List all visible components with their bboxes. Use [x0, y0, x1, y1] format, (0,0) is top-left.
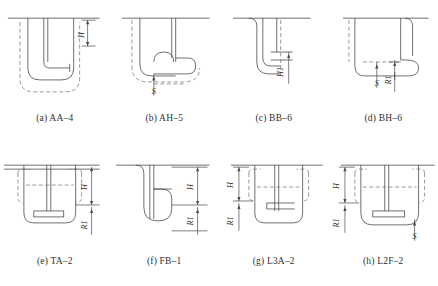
dimension-label-R1: R1: [80, 220, 89, 230]
outer-wall: [24, 165, 76, 223]
figure-caption-f: (f) FB–1: [147, 256, 182, 266]
dim-arrow-bottom-H: [196, 201, 199, 205]
figure-cell-h: H R1 S (h) L2F–2: [329, 143, 438, 286]
figure-caption-a: (a) AA–4: [36, 113, 73, 123]
figure-cell-g: H R1 (g) L3A–2: [219, 143, 329, 286]
dim-arrow-R1: [90, 209, 93, 213]
dim-arrow-bottom-H: [343, 199, 346, 203]
figure-cell-d: R1 S (d) BH–6: [329, 0, 438, 143]
side-loop: [153, 58, 195, 74]
dim-arrow-bottom-H: [86, 42, 89, 46]
figure-sheet: H (a) AA–4: [0, 0, 438, 286]
figure-drawing-a: H: [0, 0, 110, 112]
hidden-outline: [20, 22, 80, 92]
figure-cell-e: H R1 (e) TA–2: [0, 143, 110, 286]
s-symbol-arrow: [375, 64, 378, 68]
lateral-bar-upper: [267, 203, 295, 209]
figure-caption-g: (g) L3A–2: [253, 256, 295, 266]
dim-arrow-top-H: [237, 167, 240, 171]
hidden-left-edge: [354, 173, 360, 203]
t-plate: [34, 211, 64, 217]
dim-arrow-top-H: [343, 167, 346, 171]
figure-caption-d: (d) BH–6: [364, 113, 402, 123]
figure-grid: H (a) AA–4: [0, 0, 438, 286]
hidden-right-edge: [418, 173, 424, 203]
figure-caption-h: (h) L2F–2: [363, 256, 404, 266]
hidden-left-edge: [18, 173, 24, 203]
dimension-H1: [287, 52, 290, 84]
s-symbol-glyph: S: [374, 79, 378, 88]
outer-wall-left: [354, 18, 394, 76]
figure-caption-b: (b) AH–5: [145, 113, 183, 123]
figure-cell-a: H (a) AA–4: [0, 0, 110, 143]
dim-arrow-top-H: [196, 167, 199, 171]
dimension-label-R1: R1: [185, 216, 194, 226]
dimension-H: [338, 167, 358, 203]
figure-drawing-h: H R1 S: [329, 143, 438, 255]
figure-drawing-g: H R1: [219, 143, 329, 255]
top-left-fillet: [135, 165, 143, 183]
right-loop: [394, 60, 418, 76]
outer-wall: [360, 165, 418, 225]
s-symbol-glyph: S: [151, 87, 155, 96]
outer-wall-right: [404, 18, 412, 56]
inner-bar-bend: [263, 58, 281, 66]
figure-cell-c: H1 (c) BB–6: [219, 0, 329, 143]
s-symbol-glyph: S: [412, 232, 416, 241]
dimension-label-H: H: [77, 31, 86, 39]
outer-wall-left: [139, 18, 175, 76]
dim-arrow-bottom-H: [90, 201, 93, 205]
figure-cell-f: H R1 (f) FB–1: [110, 143, 220, 286]
figure-drawing-b: S: [110, 0, 220, 112]
figure-cell-b: S (b) AH–5: [110, 0, 220, 143]
dimension-label-H1: H1: [276, 67, 285, 78]
outer-wall: [28, 18, 74, 80]
dimension-R1: [90, 207, 93, 235]
dim-arrow-R1: [343, 207, 346, 211]
dimension-label-R1: R1: [383, 75, 392, 85]
dimension-label-H: H: [80, 183, 89, 191]
dimension-label-H: H: [226, 181, 235, 189]
s-symbol-arrow: [152, 76, 155, 80]
figure-drawing-d: R1 S: [329, 0, 438, 112]
dim-arrow-bottom-H: [237, 197, 240, 201]
figure-drawing-c: H1: [219, 0, 329, 112]
t-plate: [372, 211, 404, 217]
dimension-H: [233, 167, 253, 201]
dim-arrow-H1: [287, 54, 290, 58]
dim-arrow-R1: [196, 209, 199, 213]
dim-arrow-R1: [237, 205, 240, 209]
dimension-R1: [237, 203, 240, 231]
dimension-R1: [343, 205, 346, 233]
figure-caption-c: (c) BB–6: [255, 113, 292, 123]
dimension-label-R1: R1: [331, 218, 340, 228]
dimension-label-H: H: [331, 182, 340, 190]
hidden-right-edge: [303, 173, 309, 201]
upper-loop: [153, 52, 173, 62]
dim-arrow-R1: [393, 62, 396, 66]
dimension-label-R1: R1: [226, 216, 235, 226]
hidden-left-edge: [249, 173, 255, 201]
dim-arrow-top-H: [86, 20, 89, 24]
dimension-label-H: H: [185, 183, 194, 191]
figure-drawing-f: H R1: [110, 143, 220, 255]
figure-drawing-e: H R1: [0, 143, 110, 255]
figure-caption-e: (e) TA–2: [37, 256, 73, 266]
